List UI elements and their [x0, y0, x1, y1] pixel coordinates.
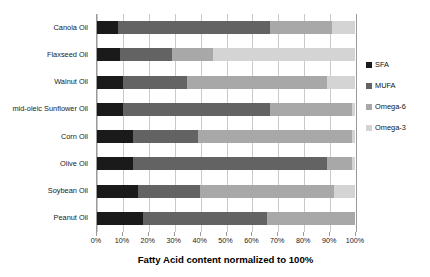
y-axis-label: Canola Oil: [0, 23, 88, 32]
bar-segment: [118, 21, 270, 34]
legend-swatch-icon: [366, 62, 372, 68]
y-axis-label: Peanut Oil: [0, 213, 88, 222]
bar-segment: [97, 185, 138, 198]
y-axis-label: Flaxseed Oil: [0, 50, 88, 59]
legend-swatch-icon: [366, 125, 372, 131]
bar-segment: [198, 130, 353, 143]
legend-item[interactable]: Omega-3: [366, 117, 428, 138]
bar-row: [97, 130, 355, 143]
chart-legend: SFAMUFAOmega-6Omega-3: [366, 54, 428, 138]
x-axis-tick-labels: 0%10%20%30%40%50%60%70%80%90%100%: [96, 236, 355, 248]
bar-row: [97, 21, 355, 34]
x-axis-tick-label: 30%: [166, 236, 180, 245]
y-axis-label: Soybean Oil: [0, 186, 88, 195]
gridline: [356, 14, 357, 232]
bar-series-layer: [97, 14, 355, 232]
bar-segment: [200, 185, 334, 198]
bar-segment: [352, 157, 355, 170]
y-axis-label: Corn Oil: [0, 132, 88, 141]
x-axis-tick-label: 10%: [115, 236, 129, 245]
bar-segment: [97, 212, 143, 225]
bar-segment: [187, 76, 326, 89]
bar-segment: [123, 103, 270, 116]
bar-segment: [97, 103, 123, 116]
x-axis-tick-label: 50%: [218, 236, 232, 245]
legend-item[interactable]: MUFA: [366, 75, 428, 96]
x-axis-tick-label: 100%: [346, 236, 364, 245]
x-axis-tick-label: 60%: [244, 236, 258, 245]
bar-row: [97, 157, 355, 170]
bar-segment: [123, 76, 188, 89]
bar-segment: [270, 21, 332, 34]
y-axis-category-labels: Canola OilFlaxseed OilWalnut Oilmid-olei…: [0, 14, 92, 232]
bar-row: [97, 48, 355, 61]
bar-segment: [213, 48, 355, 61]
y-axis-label: mid-oleic Sunflower Oil: [0, 104, 88, 113]
y-axis-label: Walnut Oil: [0, 77, 88, 86]
x-axis-tick-label: 90%: [322, 236, 336, 245]
bar-segment: [172, 48, 213, 61]
legend-label: Omega-6: [375, 102, 406, 111]
bar-segment: [97, 21, 118, 34]
y-axis-label: Olive Oil: [0, 159, 88, 168]
stacked-bar-chart: Canola OilFlaxseed OilWalnut Oilmid-olei…: [0, 0, 430, 277]
bar-row: [97, 76, 355, 89]
bar-row: [97, 103, 355, 116]
x-axis-title: Fatty Acid content normalized to 100%: [96, 254, 355, 265]
legend-label: Omega-3: [375, 123, 406, 132]
bar-segment: [327, 76, 355, 89]
bar-segment: [143, 212, 267, 225]
bar-segment: [267, 212, 355, 225]
x-axis-tick-label: 80%: [296, 236, 310, 245]
x-axis-tick-label: 0%: [91, 236, 101, 245]
bar-segment: [352, 130, 355, 143]
plot-area: [96, 14, 355, 232]
bar-segment: [133, 130, 198, 143]
bar-row: [97, 212, 355, 225]
bar-row: [97, 185, 355, 198]
bar-segment: [332, 21, 355, 34]
bar-segment: [133, 157, 327, 170]
legend-item[interactable]: SFA: [366, 54, 428, 75]
bar-segment: [97, 76, 123, 89]
legend-swatch-icon: [366, 104, 372, 110]
bar-segment: [334, 185, 355, 198]
bar-segment: [138, 185, 200, 198]
legend-item[interactable]: Omega-6: [366, 96, 428, 117]
bar-segment: [97, 157, 133, 170]
bar-segment: [352, 103, 355, 116]
bar-segment: [120, 48, 172, 61]
legend-label: SFA: [375, 60, 389, 69]
x-axis-tick-label: 40%: [192, 236, 206, 245]
bar-segment: [327, 157, 353, 170]
legend-swatch-icon: [366, 83, 372, 89]
legend-label: MUFA: [375, 81, 396, 90]
x-axis-tick-label: 20%: [141, 236, 155, 245]
x-axis-tick-label: 70%: [270, 236, 284, 245]
bar-segment: [97, 130, 133, 143]
bar-segment: [270, 103, 353, 116]
bar-segment: [97, 48, 120, 61]
